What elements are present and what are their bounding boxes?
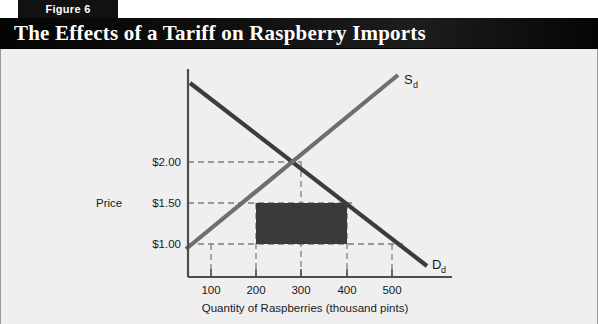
- figure-title: The Effects of a Tariff on Raspberry Imp…: [14, 20, 426, 46]
- figure-number-badge: Figure 6: [18, 0, 118, 18]
- x-tick-label-100: 100: [201, 284, 220, 296]
- tariff-revenue-rectangle: [256, 203, 347, 244]
- demand-curve-label-subscript: d: [441, 265, 446, 275]
- x-tick-label-400: 400: [337, 284, 356, 296]
- y-tick-label-1-00: $1.00: [152, 238, 181, 250]
- x-tick-label-500: 500: [382, 284, 401, 296]
- y-tick-label-1-50: $1.50: [152, 197, 181, 209]
- tariff-diagram: $2.00 $1.50 $1.00 Price 100 200 300 400 …: [0, 49, 598, 324]
- supply-curve-label: S: [404, 72, 413, 87]
- y-tick-label-2-00: $2.00: [152, 156, 181, 168]
- x-tick-label-200: 200: [246, 284, 265, 296]
- x-axis-title: Quantity of Raspberries (thousand pints): [202, 302, 409, 314]
- y-axis-title: Price: [96, 197, 122, 209]
- figure-badge-row: Figure 6: [0, 0, 598, 20]
- figure-container: Figure 6 The Effects of a Tariff on Rasp…: [0, 0, 598, 324]
- x-axis-ticks: [211, 269, 392, 277]
- plot-panel: $2.00 $1.50 $1.00 Price 100 200 300 400 …: [0, 48, 598, 324]
- supply-curve-label-subscript: d: [413, 80, 418, 90]
- demand-curve-label: D: [432, 257, 441, 272]
- x-tick-label-300: 300: [291, 284, 310, 296]
